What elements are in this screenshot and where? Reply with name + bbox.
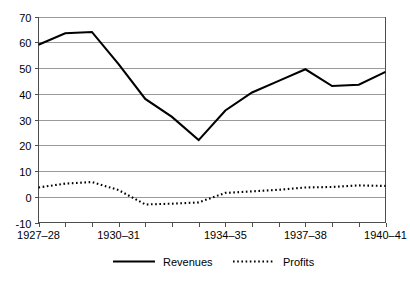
y-axis-tick-label: 10 xyxy=(19,166,31,178)
x-axis-tick-label: 1934–35 xyxy=(204,229,247,241)
y-axis-tick-label: 50 xyxy=(19,63,31,75)
series-line-profits xyxy=(39,182,386,204)
y-axis-tick-label: 30 xyxy=(19,115,31,127)
y-axis-tick-label: 20 xyxy=(19,140,31,152)
x-axis-tick-label: 1927–28 xyxy=(17,229,60,241)
y-axis-tick-label: 70 xyxy=(19,12,31,24)
x-axis-ticks xyxy=(40,223,387,227)
x-axis-tick-labels: 1927–281930–311934–351937–381940–41 xyxy=(17,229,407,241)
chart-legend: Revenues Profits xyxy=(113,256,315,268)
y-axis-tick-label: 40 xyxy=(19,89,31,101)
series-line-revenues xyxy=(39,32,386,140)
x-axis-tick-label: 1937–38 xyxy=(284,229,327,241)
y-axis-ticks xyxy=(35,18,39,224)
x-axis-tick-label: 1940–41 xyxy=(364,229,407,241)
y-axis-tick-label: 0 xyxy=(25,192,31,204)
line-chart: -10010203040506070 1927–281930–311934–35… xyxy=(0,0,410,282)
legend-label-revenues: Revenues xyxy=(163,256,213,268)
gridlines xyxy=(39,18,386,198)
x-axis-tick-label: 1930–31 xyxy=(97,229,140,241)
y-axis-tick-labels: -10010203040506070 xyxy=(16,12,32,230)
chart-canvas: -10010203040506070 1927–281930–311934–35… xyxy=(0,0,410,282)
legend-label-profits: Profits xyxy=(283,256,315,268)
y-axis-tick-label: 60 xyxy=(19,37,31,49)
